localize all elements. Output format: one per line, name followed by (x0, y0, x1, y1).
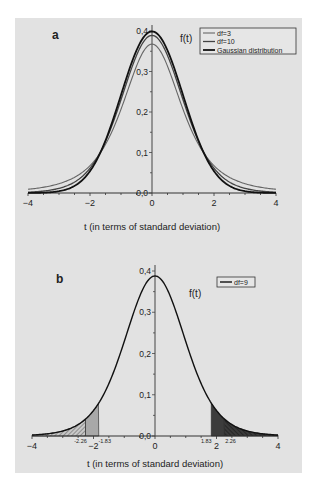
y-tick-label: 0,2 (136, 107, 148, 117)
critical-value-label: 1.83 (201, 438, 212, 444)
legend-entry: df=9 (234, 279, 248, 286)
x-tick-label: 2 (211, 198, 216, 208)
chart-panel-a: a−4−20240,00,10,20,30,4f(t)t (in terms o… (15, 18, 302, 250)
shaded-region (86, 404, 99, 436)
y-tick-label: 0,2 (139, 349, 151, 359)
x-tick-label: −2 (88, 441, 98, 451)
critical-value-label: 2.26 (225, 438, 236, 444)
legend-entry: Gaussian distribution (217, 47, 282, 54)
shaded-region (32, 419, 86, 436)
chart-b-plot: b−4−20240,00,10,20,30,4f(t)t (in terms o… (15, 250, 302, 473)
critical-value-label: -1.83 (98, 438, 111, 444)
x-tick-label: 2 (214, 441, 219, 451)
chart-a-plot: a−4−20240,00,10,20,30,4f(t)t (in terms o… (15, 18, 302, 250)
critical-value-label: -2.26 (74, 438, 87, 444)
y-tick-label: 0,1 (139, 390, 151, 400)
y-tick-label: 0,4 (139, 266, 151, 276)
y-tick-label: 0,1 (136, 148, 148, 158)
panel-label: b (56, 272, 63, 286)
legend-entry: df=10 (217, 38, 235, 45)
shaded-region (224, 419, 278, 436)
y-tick-label: 0,0 (139, 431, 151, 441)
x-axis-label: t (in terms of standard deviation) (87, 458, 223, 469)
chart-panel-b: b−4−20240,00,10,20,30,4f(t)t (in terms o… (15, 250, 302, 473)
y-tick-label: 0,3 (136, 67, 148, 77)
y-tick-label: 0,3 (139, 307, 151, 317)
x-tick-label: 4 (275, 441, 280, 451)
x-tick-label: 4 (273, 198, 278, 208)
y-axis-label: f(t) (189, 288, 201, 299)
x-tick-label: 0 (152, 441, 157, 451)
shaded-region (211, 403, 224, 436)
legend-entry: df=3 (217, 30, 231, 37)
x-tick-label: 0 (149, 198, 154, 208)
x-tick-label: −4 (23, 198, 33, 208)
x-tick-label: −2 (85, 198, 95, 208)
y-tick-label: 0,0 (136, 188, 148, 198)
panel-label: a (52, 28, 59, 42)
x-axis-label: t (in terms of standard deviation) (84, 221, 220, 232)
x-tick-label: −4 (27, 441, 37, 451)
y-axis-label: f(t) (180, 33, 192, 44)
